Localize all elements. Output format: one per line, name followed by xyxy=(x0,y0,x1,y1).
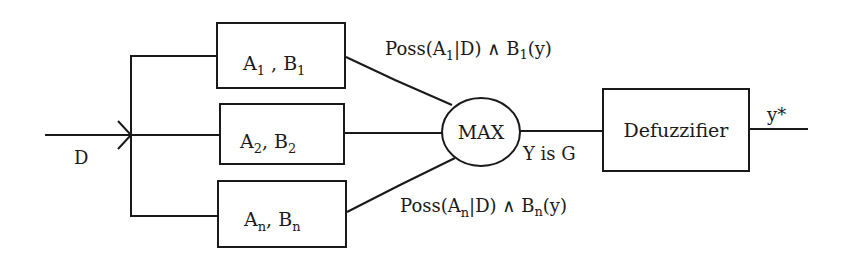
rule-block-n: An, Bn xyxy=(218,181,346,247)
edge-label-bottom: Poss(An|D) ∧ Bn(y) xyxy=(400,195,567,220)
distribution-bus xyxy=(130,56,220,216)
rule-block-1: A1 , B1 xyxy=(217,23,345,88)
max-label: MAX xyxy=(458,121,505,143)
aggregator-output-label: Y is G xyxy=(522,143,576,164)
rule-to-max-edges xyxy=(344,57,455,212)
input-connector xyxy=(45,121,131,149)
max-aggregator: MAX xyxy=(442,98,520,166)
fuzzy-inference-diagram: D A1 , B1 A2, B2 An, Bn Poss(A1|D) ∧ B1(… xyxy=(0,0,851,266)
defuzzifier-label: Defuzzifier xyxy=(624,119,730,141)
output-label: y* xyxy=(766,104,786,125)
edge-label-top: Poss(A1|D) ∧ B1(y) xyxy=(385,38,552,63)
input-label: D xyxy=(74,147,88,168)
defuzzifier-block: Defuzzifier xyxy=(603,89,749,171)
rule-block-2: A2, B2 xyxy=(220,104,344,164)
